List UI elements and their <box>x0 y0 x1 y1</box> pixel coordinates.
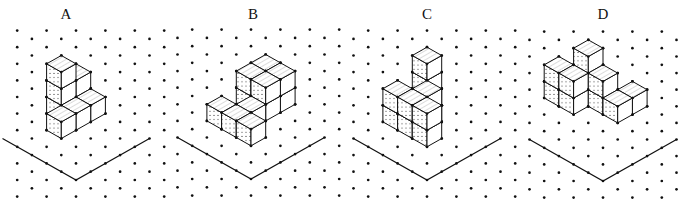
panel-label-d: D <box>598 7 609 22</box>
cube-structure <box>206 53 297 147</box>
cube-structure <box>543 39 649 125</box>
isometric-dot-grid-canvas <box>0 0 692 209</box>
isometric-figure: A B C D <box>0 0 692 209</box>
panel-a <box>3 29 166 198</box>
panel-label-a: A <box>61 7 72 22</box>
ground-axis-lines <box>3 139 150 181</box>
panel-b <box>176 28 340 197</box>
panel-d <box>528 30 678 199</box>
panel-label-b: B <box>248 7 258 22</box>
panel-label-c: C <box>422 7 432 22</box>
ground-axis-lines <box>530 140 677 182</box>
panel-c <box>352 29 516 198</box>
cube-structure <box>382 46 444 148</box>
cube-structure <box>45 54 107 140</box>
